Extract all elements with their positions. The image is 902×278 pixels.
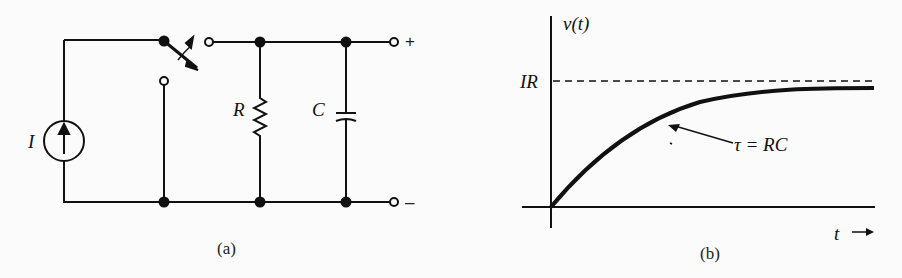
time-constant-label: τ = RC xyxy=(734,135,787,154)
source-label: I xyxy=(28,132,34,151)
switch-contact-top xyxy=(205,38,213,46)
response-plot xyxy=(522,16,875,236)
response-curve xyxy=(551,88,874,207)
switch-contact-bottom xyxy=(160,77,168,85)
plus-terminal-label: + xyxy=(405,33,415,50)
wire-left-top xyxy=(64,40,393,202)
terminal-plus xyxy=(390,38,398,46)
resistor-icon xyxy=(254,42,266,202)
circuit-diagram xyxy=(44,37,398,207)
caption-a: (a) xyxy=(217,240,236,257)
annotation-arrow xyxy=(670,126,733,144)
resistor-label: R xyxy=(233,100,245,119)
terminal-minus xyxy=(390,198,398,206)
capacitor-label: C xyxy=(312,100,325,119)
capacitor-icon xyxy=(336,42,356,202)
asymptote-label: IR xyxy=(520,72,538,91)
caption-b: (b) xyxy=(700,245,720,262)
x-axis-label: t xyxy=(834,224,839,243)
y-axis-label: v(t) xyxy=(563,14,589,33)
minus-terminal-label: – xyxy=(405,194,414,211)
